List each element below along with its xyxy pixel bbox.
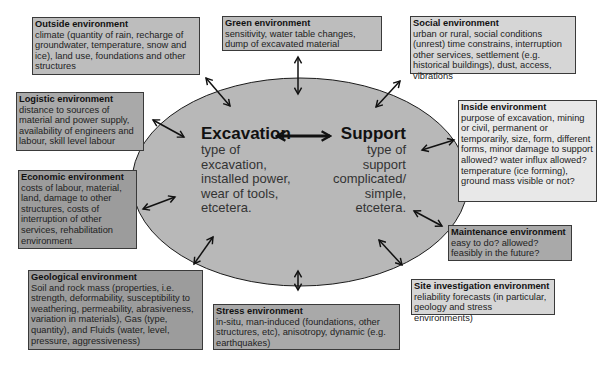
box-title: Outside environment bbox=[35, 19, 197, 30]
support-line: support bbox=[326, 158, 406, 173]
excavation-title: Excavation bbox=[201, 124, 311, 143]
support-line: complicated/ bbox=[326, 172, 406, 187]
green-environment-box: Green environment sensitivity, water tab… bbox=[222, 16, 382, 51]
box-body: easy to do? allowed? feasibly in the fut… bbox=[451, 238, 569, 259]
site-investigation-environment-box: Site investigation environment reliabili… bbox=[411, 279, 555, 315]
box-title: Maintenance environment bbox=[451, 227, 569, 238]
excavation-line: installed power, bbox=[201, 172, 311, 187]
box-title: Social environment bbox=[413, 18, 573, 29]
box-body: distance to sources of material and powe… bbox=[19, 105, 141, 147]
box-title: Economic environment bbox=[21, 172, 134, 183]
social-environment-box: Social environment urban or rural, socia… bbox=[410, 16, 576, 74]
maintenance-environment-box: Maintenance environment easy to do? allo… bbox=[448, 225, 572, 261]
excavation-text: Excavation type of excavation, installed… bbox=[201, 124, 311, 216]
box-body: reliability forecasts (in particular, ge… bbox=[414, 292, 552, 324]
excavation-line: etcetera. bbox=[201, 201, 311, 216]
support-title: Support bbox=[326, 124, 406, 143]
box-body: purpose of excavation, mining or civil, … bbox=[461, 113, 594, 187]
outside-environment-box: Outside environment climate (quantity of… bbox=[32, 17, 200, 75]
logistic-environment-box: Logistic environment distance to sources… bbox=[16, 92, 144, 151]
box-title: Geological environment bbox=[31, 272, 200, 283]
support-line: type of bbox=[326, 143, 406, 158]
economic-environment-box: Economic environment costs of labour, ma… bbox=[18, 170, 137, 249]
box-title: Logistic environment bbox=[19, 94, 141, 105]
box-body: Soil and rock mass (properties, i.e. str… bbox=[31, 283, 200, 347]
support-line: etcetera. bbox=[326, 201, 406, 216]
box-body: in-situ, man-induced (foundations, other… bbox=[216, 317, 397, 349]
stress-environment-box: Stress environment in-situ, man-induced … bbox=[213, 304, 400, 350]
box-title: Inside environment bbox=[461, 102, 594, 113]
box-body: climate (quantity of rain, recharge of g… bbox=[35, 30, 197, 72]
support-text: Support type of support complicated/ sim… bbox=[326, 124, 406, 216]
box-body: sensitivity, water table changes, dump o… bbox=[225, 29, 379, 50]
geological-environment-box: Geological environment Soil and rock mas… bbox=[28, 270, 203, 350]
inside-environment-box: Inside environment purpose of excavation… bbox=[458, 100, 597, 202]
box-body: urban or rural, social conditions (unres… bbox=[413, 29, 573, 82]
support-line: simple, bbox=[326, 187, 406, 202]
excavation-line: type of bbox=[201, 143, 311, 158]
excavation-line: wear of tools, bbox=[201, 187, 311, 202]
box-body: costs of labour, material, land, damage … bbox=[21, 183, 134, 247]
box-title: Green environment bbox=[225, 18, 379, 29]
box-title: Site investigation environment bbox=[414, 281, 552, 292]
excavation-line: excavation, bbox=[201, 158, 311, 173]
box-title: Stress environment bbox=[216, 306, 397, 317]
